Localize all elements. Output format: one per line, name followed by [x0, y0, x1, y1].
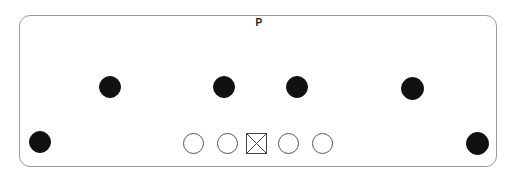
open-circle-node-icon — [278, 133, 299, 154]
open-circle-node-icon — [312, 133, 333, 154]
filled-circle-node-icon — [213, 76, 235, 98]
open-circle-node-icon — [183, 133, 204, 154]
filled-circle-node-icon — [286, 76, 308, 98]
filled-circle-node-icon — [29, 131, 51, 153]
crossed-square-node-icon — [246, 133, 267, 154]
filled-circle-node-icon — [99, 76, 121, 98]
open-circle-node-icon — [217, 133, 238, 154]
filled-circle-node-icon — [466, 132, 489, 155]
filled-circle-node-icon — [401, 77, 424, 100]
diagram-canvas: P — [0, 0, 516, 181]
panel-title-label: P — [1, 17, 516, 29]
